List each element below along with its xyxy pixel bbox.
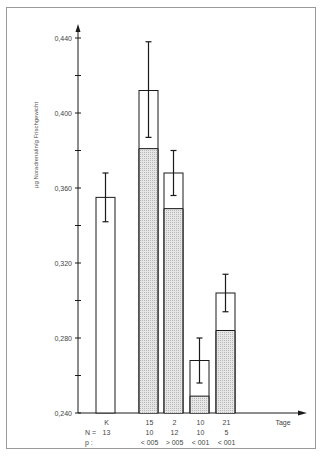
p-value: < 001: [192, 439, 210, 446]
x-axis-label: Tage: [275, 419, 290, 427]
y-axis-arrow-icon: [76, 24, 81, 32]
p-row-label: p :: [85, 439, 93, 447]
bar-outline: [96, 197, 115, 413]
bar-shaded-part: [165, 209, 183, 413]
bar-K: [96, 173, 115, 413]
n-value: 5: [225, 429, 229, 436]
p-value: < 005: [141, 439, 159, 446]
p-value: > 005: [166, 439, 184, 446]
x-category-label: 2: [173, 419, 177, 426]
x-category-label: 15: [146, 419, 154, 426]
y-axis-label: µg Noradrenalin/g Frischgewicht: [33, 102, 39, 188]
n-value: 10: [146, 429, 154, 436]
y-tick-label: 0,280: [54, 335, 72, 342]
bar-15: [139, 42, 158, 413]
bar-shaded-part: [140, 149, 158, 413]
bar-chart: 0,4400,4000,3600,3200,2800,240µg Noradre…: [0, 0, 324, 462]
bar-shaded-part: [191, 396, 209, 413]
labels: K131510< 005212> 0051010< 001215< 001N =…: [85, 419, 291, 447]
x-axis-arrow-icon: [298, 411, 307, 416]
x-category-label: 21: [223, 419, 231, 426]
bar-10: [190, 338, 209, 413]
x-category-label: K: [104, 419, 109, 426]
n-value: 13: [103, 429, 111, 436]
bar-21: [216, 274, 235, 413]
y-tick-label: 0,320: [54, 260, 72, 267]
y-tick-label: 0,360: [54, 185, 72, 192]
y-tick-label: 0,440: [54, 35, 72, 42]
n-value: 10: [197, 429, 205, 436]
n-row-label: N =: [85, 429, 96, 436]
n-value: 12: [171, 429, 179, 436]
bar-2: [164, 151, 183, 414]
p-value: < 001: [218, 439, 236, 446]
x-category-label: 10: [197, 419, 205, 426]
y-tick-label: 0,240: [54, 410, 72, 417]
bar-shaded-part: [217, 331, 235, 414]
y-tick-label: 0,400: [54, 110, 72, 117]
bars: [96, 42, 235, 413]
